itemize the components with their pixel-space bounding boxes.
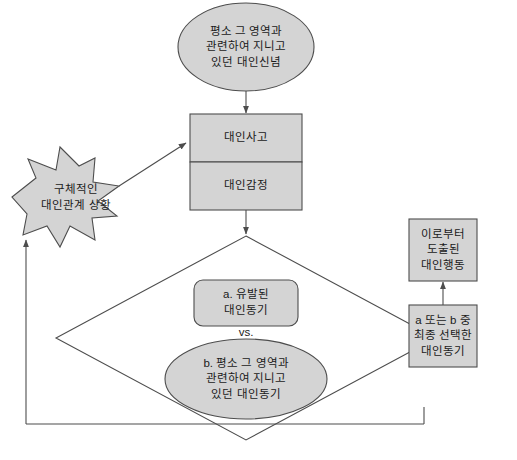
versus-label: vs. (214, 326, 278, 338)
node-final-motive-shape (409, 305, 477, 367)
diagram-canvas: 평소 그 영역과 관련하여 지니고 있던 대인신념 대인사고 대인감정 구체적인… (0, 0, 517, 460)
diagram-shapes-layer (0, 0, 517, 460)
node-prior-belief-shape (178, 3, 314, 91)
node-concrete-situation-shape (12, 147, 119, 247)
node-resulting-behavior-shape (409, 219, 477, 281)
node-interpersonal-thought-shape (190, 114, 302, 162)
edge-situation-to-thought (119, 143, 186, 186)
node-motive-a-shape (194, 280, 298, 326)
node-interpersonal-emotion-shape (190, 162, 302, 210)
node-motive-b-shape (165, 339, 327, 419)
